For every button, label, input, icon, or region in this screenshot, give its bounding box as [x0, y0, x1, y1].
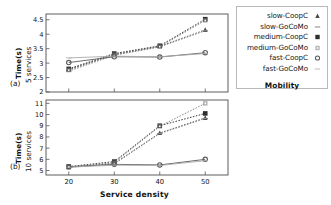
svg-text:40: 40: [155, 178, 164, 186]
panel-a-plot: 22.533.544.5: [33, 14, 228, 96]
legend-item: medium-GoCoMo: [237, 43, 323, 54]
svg-text:30: 30: [110, 178, 119, 186]
svg-text:8: 8: [39, 133, 43, 141]
svg-text:5: 5: [39, 167, 43, 175]
legend-item-label: medium-GoCoMo: [247, 43, 308, 54]
legend-marker-square-icon: [312, 32, 323, 42]
legend-item: medium-CoopC: [237, 32, 323, 43]
panel-a-y-subtitle: 5 services: [24, 47, 33, 83]
legend-item-label: slow-GoCoMo: [260, 22, 308, 33]
legend-item-label: fast-GoCoMo: [263, 64, 308, 75]
x-axis-title: Service density: [100, 190, 169, 199]
legend-item-label: slow-CoopC: [267, 11, 308, 22]
svg-text:2.5: 2.5: [33, 74, 44, 82]
svg-text:7: 7: [39, 145, 43, 153]
legend-items: slow-CoopCslow-GoCoMomedium-CoopCmedium-…: [237, 7, 327, 74]
legend-marker-circle-icon: [312, 53, 323, 63]
svg-text:6: 6: [39, 156, 43, 164]
legend-title: Mobility: [237, 81, 327, 90]
legend-marker-triangle-icon: [312, 11, 323, 21]
legend-marker-dash-icon: [312, 22, 323, 32]
panel-b-tag: (b): [10, 162, 20, 171]
panel-a-y-title: Time(s): [14, 48, 23, 79]
svg-text:3.5: 3.5: [33, 45, 44, 53]
legend-item-label: medium-CoopC: [254, 32, 308, 43]
svg-text:20: 20: [64, 178, 73, 186]
svg-text:3: 3: [39, 60, 43, 68]
svg-text:2: 2: [39, 88, 43, 96]
panel-b-y-title: Time(s): [14, 133, 23, 164]
legend-item: slow-GoCoMo: [237, 22, 323, 33]
panel-b-y-subtitle: 10 services: [24, 131, 33, 172]
svg-text:11: 11: [35, 100, 43, 108]
svg-text:4: 4: [39, 31, 43, 39]
svg-text:4.5: 4.5: [33, 16, 44, 24]
legend-item: slow-CoopC: [237, 11, 323, 22]
legend-item: fast-GoCoMo: [237, 64, 323, 75]
svg-text:9: 9: [39, 122, 43, 130]
legend-marker-dotsquare-icon: [312, 43, 323, 53]
svg-text:10: 10: [35, 111, 43, 119]
legend-marker-plain-icon: [312, 64, 323, 74]
legend: slow-CoopCslow-GoCoMomedium-CoopCmedium-…: [236, 6, 328, 89]
svg-text:50: 50: [201, 178, 210, 186]
legend-item: fast-CoopC: [237, 53, 323, 64]
chart-figure: 22.533.544.5 56789101120304050 Time(s) 5…: [0, 0, 331, 205]
panel-a-tag: (a): [10, 79, 20, 88]
legend-item-label: fast-CoopC: [270, 53, 309, 64]
panel-b-plot: 56789101120304050: [35, 100, 228, 186]
